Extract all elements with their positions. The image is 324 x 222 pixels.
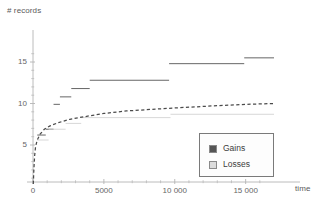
y-tick-label: 15	[0, 57, 27, 66]
chart-figure: # records time 0500010 00015 000 51015 G…	[0, 0, 324, 222]
legend-entry-gains: Gains	[209, 142, 245, 155]
x-tick-label: 5000	[84, 186, 124, 195]
legend-label-losses: Losses	[223, 160, 250, 169]
chart-legend: Gains Losses	[199, 133, 274, 177]
x-tick-label: 10 000	[155, 186, 195, 195]
y-tick-label: 10	[0, 99, 27, 108]
y-axis-label: # records	[7, 6, 41, 15]
x-tick-label: 0	[13, 186, 53, 195]
legend-swatch-losses	[209, 161, 217, 169]
legend-swatch-gains	[209, 145, 217, 153]
legend-label-gains: Gains	[223, 144, 245, 153]
legend-entry-losses: Losses	[209, 158, 250, 171]
x-tick-label: 15 000	[226, 186, 266, 195]
x-axis-label: time	[295, 184, 311, 193]
y-tick-label: 5	[0, 140, 27, 149]
